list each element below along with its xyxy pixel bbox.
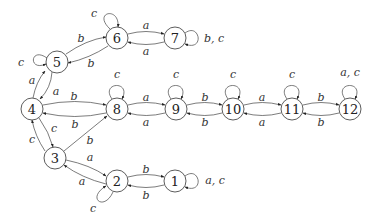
edge-label-6-5: b [87, 57, 94, 70]
edge-label-2-3: a [79, 175, 86, 188]
edge-label-6-7: a [143, 19, 150, 32]
state-node-10: 10 [222, 98, 244, 120]
edge-5-6 [66, 37, 106, 54]
node-label-9: 9 [172, 102, 180, 117]
edge-7-7 [185, 31, 198, 46]
nodes: 1 2 3 4 5 6 7 8 9 10 11 12 [21, 27, 361, 192]
edge-label-2-1: b [142, 163, 149, 176]
node-label-4: 4 [28, 102, 36, 117]
edge-label-5-5: c [18, 56, 24, 69]
edge-label-5-4: a [53, 85, 60, 98]
state-diagram: a a b, c c b b c a a b b c a a c b b c a… [0, 0, 377, 222]
edge-label-3-2: a [87, 151, 94, 164]
node-label-10: 10 [225, 102, 242, 117]
state-node-4: 4 [21, 98, 43, 120]
edge-label-10-10: c [230, 68, 236, 81]
edge-8-4 [43, 113, 106, 117]
edge-label-12-11: b [317, 116, 324, 129]
edge-label-5-6: b [77, 32, 84, 45]
edge-label-10-11: a [259, 91, 266, 104]
edge-label-4-5: a [29, 74, 36, 87]
edge-label-8-9: a [143, 91, 150, 104]
edge-8-8 [109, 85, 124, 99]
edge-5-5 [33, 55, 47, 66]
edge-label-8-8: c [114, 68, 120, 81]
edge-label-11-11: c [289, 68, 295, 81]
edge-label-4-8: b [70, 90, 77, 103]
edge-label-6-6: c [91, 7, 97, 20]
edge-label-3-4: c [29, 133, 35, 146]
edge-label-9-9: c [173, 68, 179, 81]
edge-6-7 [128, 32, 164, 35]
edge-9-9 [168, 85, 183, 99]
edge-label-9-10: b [201, 91, 208, 104]
edge-label-11-12: b [317, 91, 324, 104]
edge-labels: a a b, c c b b c a a b b c a a c b b c a… [18, 7, 360, 215]
state-node-5: 5 [46, 51, 68, 73]
node-label-2: 2 [113, 174, 121, 189]
edge-label-8-4: b [71, 118, 78, 131]
edge-label-10-9: b [201, 116, 208, 129]
edge-11-11 [284, 85, 299, 99]
node-label-3: 3 [51, 151, 59, 166]
node-label-5: 5 [53, 55, 61, 70]
edge-label-1-2: b [142, 189, 149, 202]
state-node-3: 3 [44, 147, 66, 169]
node-label-11: 11 [284, 102, 301, 117]
node-label-1: 1 [171, 174, 179, 189]
edge-label-11-10: a [259, 116, 266, 129]
state-node-11: 11 [281, 98, 303, 120]
edge-5-4 [40, 72, 52, 99]
node-label-7: 7 [171, 31, 179, 46]
edge-label-7-7: b, c [204, 32, 224, 45]
state-node-2: 2 [106, 170, 128, 192]
state-node-8: 8 [106, 98, 128, 120]
state-node-6: 6 [106, 27, 128, 49]
edge-10-10 [225, 85, 240, 99]
edge-12-12 [342, 85, 357, 99]
state-node-9: 9 [165, 98, 187, 120]
state-node-1: 1 [164, 170, 186, 192]
edge-label-7-6: a [143, 45, 150, 58]
edge-label-1-1: a, c [205, 174, 225, 187]
edge-1-2 [128, 185, 164, 188]
edge-label-9-8: a [143, 116, 150, 129]
edge-label-2-2: c [90, 202, 96, 215]
node-label-12: 12 [342, 102, 359, 117]
node-label-8: 8 [113, 102, 121, 117]
edge-label-4-3: c [51, 122, 57, 135]
edge-1-1 [185, 174, 198, 189]
edge-label-12-12: a, c [340, 66, 360, 79]
edge-label-3-8: b [86, 134, 93, 147]
node-label-6: 6 [113, 31, 121, 46]
state-node-12: 12 [339, 98, 361, 120]
state-node-7: 7 [164, 27, 186, 49]
